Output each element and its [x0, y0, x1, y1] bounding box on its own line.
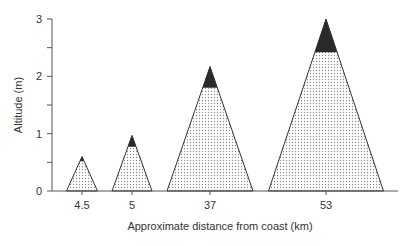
peak-4-5 [67, 157, 98, 191]
x-tick-label: 5 [129, 199, 135, 211]
peak-37 [167, 67, 253, 191]
mountain-chart: 4.5537530123 Approximate distance from c… [0, 0, 408, 246]
peak-cap [315, 19, 337, 52]
y-tick-label: 2 [36, 70, 42, 82]
peak-cap [128, 135, 136, 146]
peak-5 [112, 135, 152, 191]
y-tick-label: 0 [36, 185, 42, 197]
peaks-group [67, 19, 384, 191]
peak-cap [203, 67, 218, 88]
x-tick-label: 53 [320, 199, 332, 211]
x-tick-label: 37 [204, 199, 216, 211]
y-axis-title: Altitude (m) [12, 77, 24, 133]
y-tick-label: 1 [36, 128, 42, 140]
x-tick-label: 4.5 [74, 199, 89, 211]
peak-53 [269, 19, 384, 191]
y-tick-label: 3 [36, 13, 42, 25]
peak-body [67, 157, 98, 191]
x-axis-title: Approximate distance from coast (km) [127, 220, 312, 232]
